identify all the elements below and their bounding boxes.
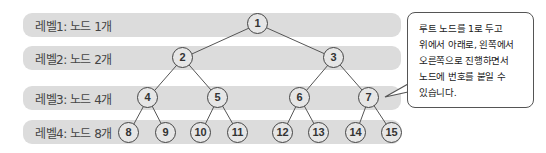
binary-tree-numbering-diagram: 레벨1: 노드 1개 레벨2: 노드 2개 레벨3: 노드 4개 레벨4: 노드… bbox=[0, 0, 546, 153]
callout-line: 위에서 아래로, 왼쪽에서 bbox=[419, 37, 527, 53]
callout-line: 노드에 번호를 붙일 수 bbox=[419, 69, 527, 85]
callout-line: 오른쪽으로 진행하면서 bbox=[419, 53, 527, 69]
callout-line: 루트 노드를 1로 두고 bbox=[419, 21, 527, 37]
callout-box: 루트 노드를 1로 두고 위에서 아래로, 왼쪽에서 오른쪽으로 진행하면서 노… bbox=[407, 12, 534, 108]
callout-line: 있습니다. bbox=[419, 85, 527, 101]
